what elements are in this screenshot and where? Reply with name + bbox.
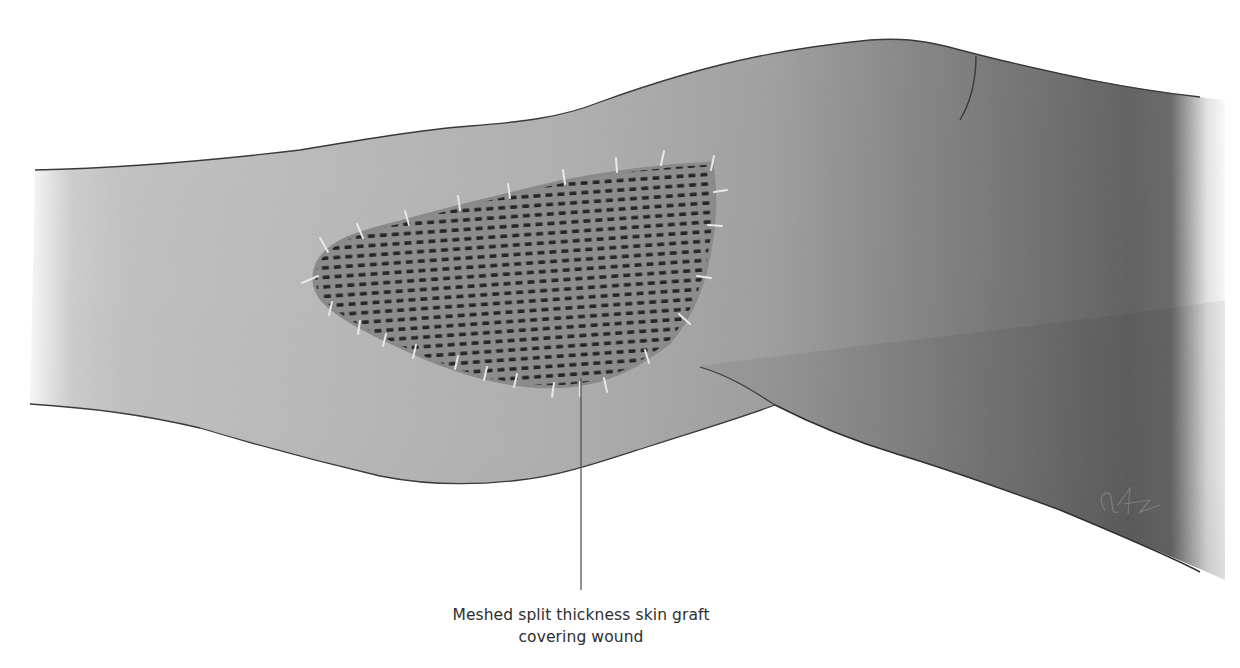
- annotation-line-1: Meshed split thickness skin graft: [381, 604, 781, 626]
- graft-annotation-label: Meshed split thickness skin graft coveri…: [381, 604, 781, 648]
- staple: [708, 225, 722, 226]
- staple: [616, 158, 617, 172]
- annotation-line-2: covering wound: [381, 626, 781, 648]
- leg-illustration: [0, 0, 1240, 668]
